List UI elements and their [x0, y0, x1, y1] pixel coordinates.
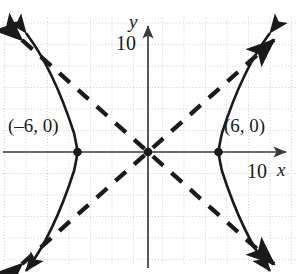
graph-canvas [0, 0, 301, 274]
y-axis-tick-label-10: 10 [116, 33, 136, 53]
vertex-point-left [73, 148, 82, 157]
x-axis-label: x [277, 160, 285, 179]
x-axis-tick-label-10: 10 [247, 161, 267, 181]
hyperbola-figure: y 10 10 x (–6, 0) (6, 0) [0, 0, 301, 274]
vertex-point-right [214, 148, 223, 157]
vertex-label-right: (6, 0) [224, 116, 265, 135]
vertex-label-left: (–6, 0) [8, 116, 59, 135]
y-axis-label: y [129, 12, 137, 31]
center-point [144, 148, 153, 157]
